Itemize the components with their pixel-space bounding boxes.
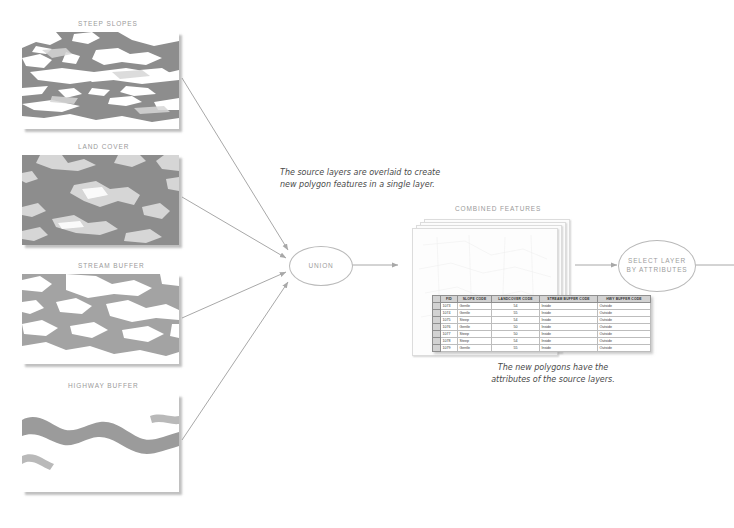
layer-thumbnail-land-cover[interactable]	[22, 155, 179, 245]
cell-slope-code: Gentle	[458, 345, 492, 352]
annotation-attributes-line1: The new polygons have the	[478, 362, 628, 374]
process-union[interactable]: UNION	[289, 246, 353, 286]
process-union-label: UNION	[308, 262, 333, 271]
annotation-union-line1: The source layers are overlaid to create	[280, 167, 440, 179]
attribute-table-col-hwy-buffer-code[interactable]: HWY BUFFER CODE	[598, 296, 651, 303]
attribute-table-col-fid[interactable]: FID	[441, 296, 458, 303]
layer-label-steep-slopes: STEEP SLOPES	[78, 20, 138, 27]
arrow-steep-slopes-to-union	[182, 78, 288, 250]
cell-slope-code: Steep	[458, 317, 492, 324]
table-row[interactable]: 1074 Gentle 55 Inside Outside	[433, 310, 651, 317]
layer-thumbnail-stream-buffer[interactable]	[22, 274, 179, 364]
attribute-table-col-stream-buffer-code[interactable]: STREAM BUFFER CODE	[540, 296, 598, 303]
cell-slope-code: Gentle	[458, 303, 492, 310]
annotation-attributes-line2: attributes of the source layers.	[478, 374, 628, 386]
cell-landcover-code: 50	[492, 324, 540, 331]
row-selector[interactable]	[433, 310, 441, 317]
process-select-layer-by-attributes[interactable]: SELECT LAYER BY ATTRIBUTES	[618, 240, 696, 292]
cell-stream-buffer-code: Inside	[540, 338, 598, 345]
table-row[interactable]: 1077 Steep 50 Inside Outside	[433, 331, 651, 338]
cell-slope-code: Gentle	[458, 324, 492, 331]
table-row[interactable]: 1078 Steep 54 Inside Outside	[433, 338, 651, 345]
row-selector[interactable]	[433, 338, 441, 345]
arrow-stream-buffer-to-union	[182, 272, 286, 318]
annotation-attributes-description: The new polygons have the attributes of …	[478, 362, 628, 387]
cell-hwy-buffer-code: Outside	[598, 317, 651, 324]
layer-label-land-cover: LAND COVER	[78, 143, 129, 150]
attribute-table-header-row: FID SLOPE CODE LANDCOVER CODE STREAM BUF…	[433, 296, 651, 303]
attribute-table-select-all-corner[interactable]	[433, 296, 441, 303]
cell-slope-code: Steep	[458, 338, 492, 345]
cell-landcover-code: 55	[492, 345, 540, 352]
cell-hwy-buffer-code: Outside	[598, 331, 651, 338]
cell-landcover-code: 54	[492, 303, 540, 310]
steep-slopes-raster	[22, 32, 179, 129]
table-row[interactable]: 1075 Steep 54 Inside Outside	[433, 317, 651, 324]
layer-label-stream-buffer: STREAM BUFFER	[78, 262, 145, 269]
workflow-diagram-canvas: STEEP SLOPES	[0, 0, 734, 528]
cell-landcover-code: 50	[492, 331, 540, 338]
cell-stream-buffer-code: Inside	[540, 303, 598, 310]
cell-hwy-buffer-code: Outside	[598, 310, 651, 317]
process-select-layer-line2: BY ATTRIBUTES	[626, 266, 687, 275]
layer-thumbnail-highway-buffer[interactable]	[22, 394, 179, 492]
cell-hwy-buffer-code: Outside	[598, 324, 651, 331]
cell-fid: 1076	[441, 324, 458, 331]
cell-stream-buffer-code: Inside	[540, 317, 598, 324]
cell-fid: 1074	[441, 310, 458, 317]
arrow-highway-buffer-to-union	[182, 282, 288, 440]
cell-fid: 1077	[441, 331, 458, 338]
cell-landcover-code: 54	[492, 338, 540, 345]
row-selector[interactable]	[433, 317, 441, 324]
layer-label-highway-buffer: HIGHWAY BUFFER	[68, 382, 139, 389]
output-label-combined-features: COMBINED FEATURES	[455, 205, 541, 212]
cell-hwy-buffer-code: Outside	[598, 303, 651, 310]
attribute-table-body: 1073 Gentle 54 Inside Outside 1074 Gentl…	[433, 303, 651, 352]
attribute-table-col-slope-code[interactable]: SLOPE CODE	[458, 296, 492, 303]
highway-buffer-raster	[22, 394, 179, 492]
process-select-layer-line1: SELECT LAYER	[628, 257, 686, 266]
annotation-union-line2: new polygon features in a single layer.	[280, 179, 440, 191]
table-row[interactable]: 1076 Gentle 50 Inside Outside	[433, 324, 651, 331]
row-selector[interactable]	[433, 331, 441, 338]
table-row[interactable]: 1073 Gentle 54 Inside Outside	[433, 303, 651, 310]
cell-landcover-code: 55	[492, 310, 540, 317]
table-row[interactable]: 1079 Gentle 55 Inside Outside	[433, 345, 651, 352]
cell-stream-buffer-code: Inside	[540, 345, 598, 352]
cell-landcover-code: 54	[492, 317, 540, 324]
row-selector[interactable]	[433, 303, 441, 310]
land-cover-raster	[22, 155, 179, 245]
annotation-union-description: The source layers are overlaid to create…	[280, 167, 440, 192]
cell-stream-buffer-code: Inside	[540, 324, 598, 331]
cell-fid: 1075	[441, 317, 458, 324]
cell-slope-code: Gentle	[458, 310, 492, 317]
cell-hwy-buffer-code: Outside	[598, 345, 651, 352]
attribute-table-col-landcover-code[interactable]: LANDCOVER CODE	[492, 296, 540, 303]
cell-stream-buffer-code: Inside	[540, 331, 598, 338]
layer-thumbnail-steep-slopes[interactable]	[22, 32, 179, 129]
cell-fid: 1073	[441, 303, 458, 310]
cell-fid: 1079	[441, 345, 458, 352]
row-selector[interactable]	[433, 324, 441, 331]
cell-slope-code: Steep	[458, 331, 492, 338]
cell-stream-buffer-code: Inside	[540, 310, 598, 317]
arrow-land-cover-to-union	[182, 197, 286, 258]
attribute-table[interactable]: FID SLOPE CODE LANDCOVER CODE STREAM BUF…	[432, 295, 651, 352]
row-selector[interactable]	[433, 345, 441, 352]
cell-hwy-buffer-code: Outside	[598, 338, 651, 345]
stream-buffer-raster	[22, 274, 179, 364]
cell-fid: 1078	[441, 338, 458, 345]
